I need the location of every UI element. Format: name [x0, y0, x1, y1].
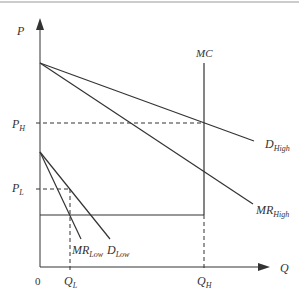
price-discrimination-diagram: P Q 0 MC DHigh MRHigh MRLow DLow PH PL Q… — [0, 0, 299, 301]
x-axis-label: Q — [280, 261, 289, 275]
y-axis-label: P — [16, 24, 25, 38]
d-low-label: DLow — [106, 243, 130, 259]
y-axis-arrow-icon — [36, 18, 44, 30]
ph-label: PH — [11, 117, 26, 133]
mc-curve — [40, 63, 204, 215]
x-axis-arrow-icon — [258, 263, 270, 271]
origin-label: 0 — [35, 275, 41, 287]
mr-high-label: MRHigh — [255, 203, 289, 219]
ql-label: QL — [64, 274, 78, 290]
mr-high-curve — [40, 63, 253, 204]
axes — [36, 18, 270, 271]
mr-low-label: MRLow — [71, 243, 104, 259]
pl-label: PL — [11, 181, 24, 197]
qh-label: QH — [197, 274, 213, 290]
d-high-label: DHigh — [264, 137, 290, 153]
mc-label: MC — [195, 47, 213, 59]
d-high-curve — [40, 63, 254, 141]
